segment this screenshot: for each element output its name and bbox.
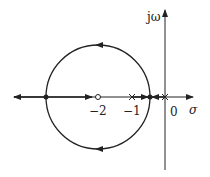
tick-label-zero: 0 [170, 106, 178, 118]
tick-label-minus-one: −1 [123, 105, 141, 117]
breakaway-point-left [44, 95, 49, 100]
real-axis-label: σ [189, 104, 197, 116]
arrow-bottom [95, 146, 103, 152]
imag-axis-label: jω [147, 11, 161, 23]
tick-label-minus-two: −2 [89, 105, 107, 117]
zero-marker [96, 95, 101, 100]
root-locus-plot [0, 0, 210, 177]
arrow-top [95, 42, 103, 48]
breakaway-point-right [148, 95, 153, 100]
